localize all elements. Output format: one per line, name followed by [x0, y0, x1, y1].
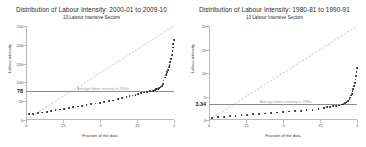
data-point [167, 69, 169, 71]
y-tick-label: 50 [19, 99, 23, 104]
y-tick-label: 20 [202, 24, 206, 29]
data-point [138, 93, 140, 95]
data-point [99, 102, 101, 104]
data-point [300, 110, 302, 112]
chart-subtitle: 13 Labour Intensive Sectors [0, 15, 183, 20]
data-point [173, 43, 175, 45]
data-point [64, 108, 66, 110]
x-tick-label: 1 [173, 123, 175, 128]
data-point [41, 111, 43, 113]
y-tick [206, 50, 209, 51]
data-point [326, 106, 328, 108]
data-point [235, 115, 237, 117]
data-point [28, 113, 30, 115]
data-point [129, 95, 131, 97]
data-point [351, 93, 353, 95]
data-point [288, 111, 290, 113]
figure-pair: Distribution of Labour Intensity: 2000-0… [0, 0, 366, 147]
x-tick-label: .25 [60, 123, 65, 128]
data-point [306, 109, 308, 111]
page-title: Distribution of Labour Intensity: 2000-0… [0, 6, 183, 13]
data-point [149, 90, 151, 92]
data-point [121, 97, 123, 99]
data-point [95, 102, 97, 104]
y-tick-label: 5 [204, 94, 206, 99]
data-point [37, 112, 39, 114]
data-point [338, 104, 340, 106]
data-point [172, 50, 174, 52]
data-point [77, 105, 79, 107]
average-annotation: Average labour intensity in 2000s [77, 87, 129, 91]
x-tick-label: .75 [317, 123, 322, 128]
y-tick [206, 26, 209, 27]
x-axis-title: Fraction of the data [209, 133, 357, 138]
data-point [354, 82, 356, 84]
y-tick-label: 200 [17, 42, 24, 47]
data-point [276, 111, 278, 113]
y-tick-label: 150 [17, 61, 24, 66]
x-axis-title: Fraction of the data [26, 133, 174, 138]
data-point [217, 116, 219, 118]
data-point [270, 112, 272, 114]
y-tick-label: 250 [17, 24, 24, 29]
data-point [294, 110, 296, 112]
data-point [161, 85, 163, 87]
data-point [72, 106, 74, 108]
data-point [86, 104, 88, 106]
data-point [356, 71, 358, 73]
data-point [90, 103, 92, 105]
y-tick-label: 0 [204, 118, 206, 123]
data-point [349, 96, 351, 98]
data-point [350, 95, 352, 97]
data-point [135, 94, 137, 96]
data-point [312, 109, 314, 111]
data-point [112, 99, 114, 101]
data-point [32, 113, 34, 115]
data-point [329, 106, 331, 108]
data-point [352, 88, 354, 90]
data-point [168, 66, 170, 68]
data-point [258, 113, 260, 115]
x-tick-label: .75 [134, 123, 139, 128]
data-point [55, 109, 57, 111]
data-point [355, 75, 357, 77]
data-point [211, 117, 213, 119]
data-point [229, 115, 231, 117]
x-tick-label: .25 [243, 123, 248, 128]
data-point [324, 107, 326, 109]
data-point [170, 58, 172, 60]
data-point [108, 100, 110, 102]
x-tick-label: 1 [356, 123, 358, 128]
data-point [163, 80, 165, 82]
plot-area-1: 051015200.25.5.7513.34Average labour int… [209, 26, 357, 120]
data-point [126, 96, 128, 98]
data-point [352, 90, 354, 92]
chart-panel-2000s: Distribution of Labour Intensity: 2000-0… [0, 0, 183, 147]
data-point [353, 85, 355, 87]
data-point [169, 64, 171, 66]
data-point [332, 105, 334, 107]
data-point [264, 112, 266, 114]
data-point [171, 54, 173, 56]
x-tick-label: .5 [281, 123, 284, 128]
data-point [117, 98, 119, 100]
plot-area-0: 0501001502002500.25.5.75178Average labou… [26, 26, 174, 120]
data-point [247, 114, 249, 116]
y-tick-label: 10 [202, 71, 206, 76]
data-point [143, 92, 145, 94]
average-annotation: Average labour intensity in 1980s [260, 100, 312, 104]
y-tick-label: 0 [21, 118, 23, 123]
x-tick-label: 0 [208, 123, 210, 128]
data-point [335, 105, 337, 107]
data-point [347, 100, 349, 102]
chart-subtitle: 13 Labour Intensive Sectors [183, 15, 366, 20]
y-tick [206, 97, 209, 98]
data-point [282, 111, 284, 113]
average-value-label: 78 [17, 88, 23, 94]
data-point [59, 108, 61, 110]
data-point [141, 92, 143, 94]
data-point [252, 113, 254, 115]
average-value-label: 3.34 [196, 101, 207, 107]
data-point [81, 105, 83, 107]
data-point [169, 61, 171, 63]
